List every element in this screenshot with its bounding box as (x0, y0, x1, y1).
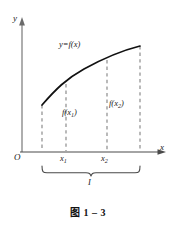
interval-brace (42, 166, 140, 176)
fx1-head: f(x (62, 107, 71, 117)
curve-equation-label: y=f(x) (59, 40, 80, 49)
fx2-tail: ) (121, 98, 124, 108)
figure-container: y x O y=f(x) f(x1) f(x2) x1 x2 I 图 1 – 3 (0, 0, 176, 227)
figure-caption: 图 1 – 3 (0, 204, 176, 219)
y-axis-label: y (13, 14, 17, 23)
interval-label: I (88, 178, 91, 187)
function-curve (42, 46, 140, 105)
x1-tick-label: x1 (60, 154, 67, 164)
x2-tick-subscript: 2 (105, 158, 108, 164)
fx2-head: f(x (109, 98, 118, 108)
fx2-value-label: f(x2) (109, 99, 124, 109)
x2-tick-label: x2 (101, 154, 108, 164)
x1-tick-subscript: 1 (64, 158, 67, 164)
fx1-tail: ) (74, 107, 77, 117)
x-axis-label: x (160, 143, 164, 152)
y-axis-arrowhead (19, 17, 25, 26)
function-plot (0, 0, 176, 227)
fx1-value-label: f(x1) (62, 108, 77, 118)
origin-label: O (14, 153, 21, 162)
